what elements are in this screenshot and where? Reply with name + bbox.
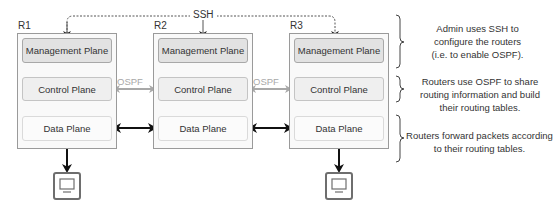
note-data: Routers forward packets according to the… [402,129,557,155]
note-line: their routing tables. [405,101,555,114]
data-plane-label: Data Plane [315,123,362,134]
note-line: (i.e. to enable OSPF). [410,48,545,61]
management-plane: Management Plane [22,38,112,63]
management-plane-label: Management Plane [298,45,380,56]
management-plane-label: Management Plane [26,45,108,56]
note-line: Routers forward packets according [402,129,557,142]
router-r2: Management Plane Control Plane Data Plan… [153,33,253,149]
control-plane: Control Plane [294,77,384,101]
data-plane-label: Data Plane [43,123,90,134]
computer-icon [327,174,351,198]
router-r3-label: R3 [290,20,303,31]
router-r2-label: R2 [154,20,167,31]
note-line: Routers use OSPF to share [405,75,555,88]
note-line: to their routing tables. [402,142,557,155]
brace-management-icon [396,15,404,68]
management-plane: Management Plane [294,38,384,63]
control-plane: Control Plane [158,77,248,101]
note-line: routing information and build [405,88,555,101]
control-plane: Control Plane [22,77,112,101]
note-line: configure the routers [410,35,545,48]
host-r3-computer-icon [325,172,353,200]
data-plane-label: Data Plane [179,123,226,134]
ssh-label: SSH [190,9,217,20]
ospf-label-r1-r2: OSPF [117,76,143,87]
management-plane: Management Plane [158,38,248,63]
data-plane: Data Plane [158,116,248,141]
control-plane-label: Control Plane [38,84,96,95]
control-plane-label: Control Plane [174,84,232,95]
data-plane: Data Plane [22,116,112,141]
data-plane: Data Plane [294,116,384,141]
brace-control-icon [396,76,404,102]
host-r1-computer-icon [53,172,81,200]
note-line: Admin uses SSH to [410,22,545,35]
note-control: Routers use OSPF to share routing inform… [405,75,555,114]
management-plane-label: Management Plane [162,45,244,56]
computer-icon [55,174,79,198]
note-management: Admin uses SSH to configure the routers … [410,22,545,61]
router-r3: Management Plane Control Plane Data Plan… [289,33,389,149]
router-r1: Management Plane Control Plane Data Plan… [17,33,117,149]
control-plane-label: Control Plane [310,84,368,95]
ospf-label-r2-r3: OSPF [253,76,279,87]
router-r1-label: R1 [18,20,31,31]
